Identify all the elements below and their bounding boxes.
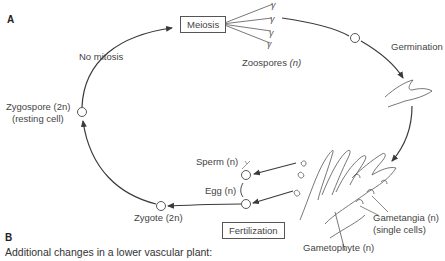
sperm-label: Sperm (n) (196, 157, 238, 167)
zoospores-label: Zoospores (n) (242, 58, 301, 68)
no-mitosis-label: No mitosis (79, 52, 123, 62)
svg-text:γ: γ (269, 28, 274, 38)
gametophyte-label: Gametophyte (n) (303, 243, 374, 253)
spore-circle (351, 34, 360, 43)
arrow-to-gametophyte (392, 106, 412, 161)
arrow-egg-to-zygote (168, 204, 241, 206)
svg-text:γ: γ (270, 14, 275, 24)
zygospore-circle (78, 108, 87, 117)
sperm-flagella-icon (242, 161, 250, 169)
germination-label: Germination (391, 42, 443, 52)
arrow-zygote-to-zygospore (83, 121, 156, 204)
zygospore-note: (resting cell) (12, 114, 64, 124)
zygospore-label: Zygospore (2n) (6, 102, 70, 112)
arrow-to-sperm (254, 163, 296, 174)
egg-label: Egg (n) (205, 186, 236, 196)
zoospores-text: Zoospores (242, 57, 287, 68)
zygote-circle (157, 202, 166, 211)
fertilization-box: Fertilization (222, 222, 285, 239)
gametophyte-icon (294, 150, 396, 251)
arrow-zoospore-line (282, 18, 349, 36)
meiosis-box: Meiosis (180, 16, 226, 33)
fusion-bracket (241, 183, 243, 197)
section-b-label: B (5, 232, 12, 243)
section-a-label: A (7, 14, 14, 25)
svg-text:γ: γ (271, 0, 276, 10)
gametangia-pointer-2 (372, 196, 388, 212)
svg-text:γ: γ (267, 39, 272, 49)
section-b-caption: Additional changes in a lower vascular p… (5, 246, 212, 258)
sperm-circle (242, 171, 251, 180)
arrow-to-egg (253, 191, 293, 203)
zoospores-icon: γ γ γ γ (222, 0, 276, 49)
egg-circle (242, 200, 251, 209)
gametangia-note: (single cells) (373, 225, 426, 235)
zygote-label: Zygote (2n) (134, 213, 183, 223)
arrow-zygospore-to-meiosis (82, 28, 172, 107)
gametangia-label: Gametangia (n) (373, 213, 439, 223)
germling-icon (385, 80, 432, 107)
zoospores-ploidy: (n) (290, 57, 302, 68)
